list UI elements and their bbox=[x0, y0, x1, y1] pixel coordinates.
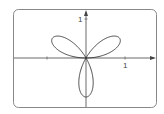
polar-rose-plot: 1 1 bbox=[0, 0, 164, 114]
x-tick-label-1: 1 bbox=[123, 61, 128, 70]
plot-frame bbox=[14, 10, 157, 108]
y-tick-label-1: 1 bbox=[78, 15, 83, 24]
